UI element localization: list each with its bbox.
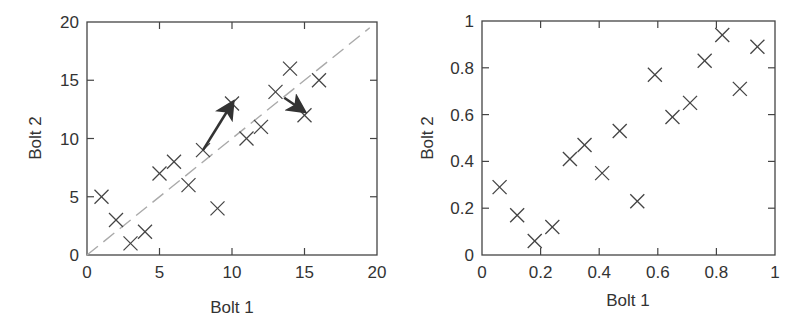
x-tick-label: 0.8: [705, 263, 729, 282]
data-point-marker: [528, 234, 542, 248]
y-tick-label: 0.6: [450, 106, 474, 125]
y-axis-label: Bolt 2: [26, 116, 45, 159]
data-point-marker: [493, 180, 507, 194]
y-tick-label: 0.4: [450, 152, 474, 171]
x-tick-label: 0: [477, 263, 486, 282]
data-point-marker: [733, 82, 747, 96]
y-tick-label: 1: [465, 12, 474, 31]
data-point-marker: [510, 208, 524, 222]
y-tick-label: 0.8: [450, 59, 474, 78]
data-point-marker: [698, 54, 712, 68]
data-point-marker: [665, 110, 679, 124]
annotation-arrows: [203, 98, 303, 150]
x-tick-label: 15: [295, 263, 314, 282]
data-point-marker: [109, 213, 123, 227]
reference-diagonal-line: [87, 28, 370, 255]
data-point-marker: [124, 236, 138, 250]
left-scatter-plot: 0510152005101520 Bolt 1 Bolt 2: [26, 13, 386, 317]
data-point-marker: [545, 220, 559, 234]
data-point-marker: [211, 201, 225, 215]
data-point-marker: [153, 166, 167, 180]
axis-ticks: 00.20.40.60.8100.20.40.60.81: [450, 12, 779, 282]
data-point-marker: [563, 152, 577, 166]
data-point-marker: [254, 120, 268, 134]
data-point-marker: [240, 132, 254, 146]
data-point-marker: [648, 68, 662, 82]
annotation-arrow: [203, 104, 232, 151]
x-tick-label: 0.2: [529, 263, 553, 282]
y-tick-label: 0: [70, 246, 79, 265]
y-tick-label: 15: [60, 71, 79, 90]
data-point-marker: [138, 225, 152, 239]
data-point-marker: [683, 96, 697, 110]
x-tick-label: 0.4: [587, 263, 611, 282]
x-tick-label: 20: [368, 263, 387, 282]
data-point-marker: [750, 40, 764, 54]
data-point-marker: [298, 108, 312, 122]
y-tick-label: 10: [60, 130, 79, 149]
data-points: [493, 28, 765, 248]
data-point-marker: [595, 166, 609, 180]
data-point-marker: [95, 190, 109, 204]
y-tick-label: 20: [60, 13, 79, 32]
x-tick-label: 5: [155, 263, 164, 282]
x-tick-label: 1: [770, 263, 779, 282]
data-point-marker: [312, 73, 326, 87]
y-tick-label: 0.2: [450, 199, 474, 218]
data-point-marker: [613, 124, 627, 138]
data-point-marker: [715, 28, 729, 42]
data-point-marker: [283, 62, 297, 76]
x-tick-label: 10: [223, 263, 242, 282]
data-point-marker: [167, 155, 181, 169]
x-axis-label: Bolt 1: [210, 298, 253, 317]
x-axis-label: Bolt 1: [606, 291, 649, 310]
right-scatter-plot: 00.20.40.60.8100.20.40.60.81 Bolt 1 Bolt…: [418, 12, 780, 310]
y-axis-label: Bolt 2: [418, 116, 437, 159]
data-point-marker: [630, 194, 644, 208]
data-point-marker: [269, 85, 283, 99]
data-point-marker: [578, 138, 592, 152]
figure: 0510152005101520 Bolt 1 Bolt 2 00.20.40.…: [0, 0, 797, 335]
annotation-arrow: [284, 98, 303, 111]
x-tick-label: 0.6: [646, 263, 670, 282]
y-tick-label: 0: [465, 246, 474, 265]
x-tick-label: 0: [82, 263, 91, 282]
data-point-marker: [182, 178, 196, 192]
y-tick-label: 5: [70, 188, 79, 207]
plot-frame: [482, 21, 775, 255]
